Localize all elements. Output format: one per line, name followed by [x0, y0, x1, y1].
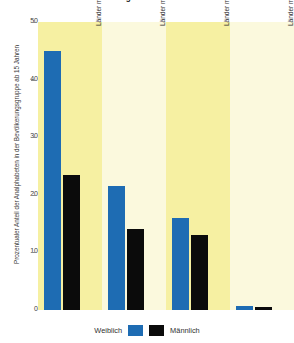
legend-swatch-male	[149, 325, 164, 336]
legend-swatch-female	[128, 325, 143, 336]
bar-male	[191, 235, 208, 310]
y-axis-ticks: 01020304050	[0, 22, 38, 310]
category-label: Länder mit niedrigem Einkommen	[287, 0, 294, 26]
legend-label-male: Männlich	[170, 326, 200, 335]
category-label: Länder mit mittleren Einkommen, obere Ka…	[159, 0, 166, 26]
chart-container: Landern die dauer im Landervergleich Pro…	[0, 0, 294, 343]
y-axis-tick-mark	[31, 137, 36, 138]
bar-male	[63, 175, 80, 310]
bar-female	[236, 306, 253, 310]
category-label: Länder mit hohem Einkommen	[95, 0, 102, 26]
bar-female	[44, 51, 61, 310]
bar-female	[172, 218, 189, 310]
legend-label-female: Weiblich	[94, 326, 122, 335]
y-axis-tick-label: 0	[12, 305, 38, 312]
plot-area: Länder mit hohem EinkommenLänder mit mit…	[38, 22, 294, 310]
category-label: Länder mit mittlerem Einkommen, untere K…	[223, 0, 230, 26]
chart-title: Landern die dauer im Landervergleich	[4, 0, 290, 2]
y-axis-tick-mark	[31, 195, 36, 196]
y-axis-tick-mark	[31, 22, 36, 23]
y-axis-tick-mark	[31, 80, 36, 81]
category-band	[230, 22, 294, 310]
y-axis-tick-mark	[31, 252, 36, 253]
chart-legend: Weiblich Männlich	[0, 322, 294, 338]
bar-female	[108, 186, 125, 310]
bar-male	[255, 307, 272, 310]
bar-male	[127, 229, 144, 310]
